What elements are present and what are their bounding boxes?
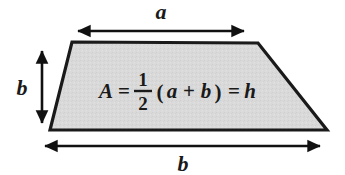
formula-close-paren: ) bbox=[215, 80, 222, 104]
formula-equals-second: = bbox=[228, 79, 240, 103]
formula-lhs-A: A bbox=[97, 79, 113, 103]
formula-rhs-h: h bbox=[244, 79, 256, 103]
label-left-dimension-b: b bbox=[17, 75, 28, 100]
formula-fraction-denominator: 2 bbox=[138, 93, 148, 114]
formula-plus: + bbox=[183, 79, 195, 103]
label-bottom-dimension-b: b bbox=[178, 151, 189, 175]
formula-equals-first: = bbox=[118, 79, 130, 103]
formula-term-a: a bbox=[167, 79, 178, 103]
formula-fraction-numerator: 1 bbox=[138, 69, 148, 90]
diagram-canvas: a b b A = 1 2 ( a + b ) = h bbox=[0, 0, 345, 175]
formula-open-paren: ( bbox=[157, 80, 164, 104]
trapezoid-diagram: a b b A = 1 2 ( a + b ) = h bbox=[0, 0, 345, 175]
formula-term-b: b bbox=[201, 79, 212, 103]
label-top-dimension-a: a bbox=[156, 0, 167, 24]
